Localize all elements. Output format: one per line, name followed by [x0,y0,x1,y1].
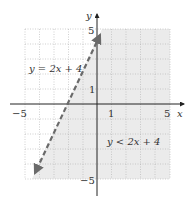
x-tick-neg5: −5 [12,108,27,119]
inequality-graph: −5 1 5 x y 5 1 −5 y = 2x + 4 y < 2x + 4 [0,0,191,203]
y-axis-label: y [85,10,92,21]
x-axis-label: x [177,108,183,119]
y-tick-1: 1 [89,84,95,95]
x-tick-1: 1 [108,108,114,119]
x-tick-5: 5 [164,108,170,119]
region-inequality-label: y < 2x + 4 [106,136,161,147]
line-equation-label: y = 2x + 4 [28,63,83,74]
y-tick-5: 5 [88,25,94,36]
y-tick-neg5: −5 [80,175,95,186]
